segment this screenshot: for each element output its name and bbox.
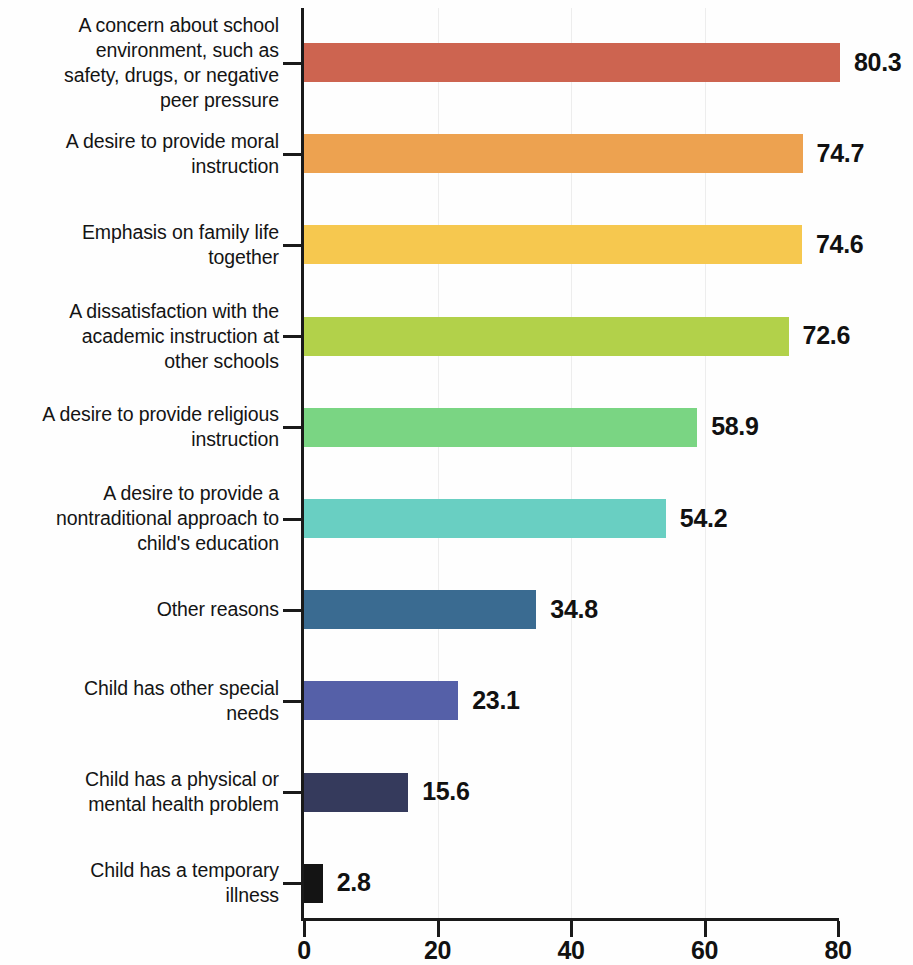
bar: [304, 590, 536, 629]
bar: [304, 317, 789, 356]
bar-value-label: 23.1: [472, 686, 519, 715]
category-label-line: Child has a physical or: [0, 767, 279, 792]
y-axis-tick: [283, 335, 303, 338]
bar-value-label: 72.6: [803, 321, 850, 350]
bar: [304, 499, 666, 538]
category-label-line: Other reasons: [0, 597, 279, 622]
category-label: Child has a physical ormental health pro…: [0, 767, 279, 817]
category-label-line: environment, such as: [0, 38, 279, 63]
x-axis-tick-label: 40: [541, 936, 601, 965]
category-label-line: other schools: [0, 349, 279, 374]
category-label-line: A desire to provide a: [0, 481, 279, 506]
category-label: A desire to provide religiousinstruction: [0, 402, 279, 452]
x-axis-tick: [570, 921, 573, 937]
category-label-line: mental health problem: [0, 792, 279, 817]
bar: [304, 134, 803, 173]
bar-row: A concern about schoolenvironment, such …: [0, 8, 913, 99]
bar-row: Child has a physical ormental health pro…: [0, 738, 913, 829]
y-axis-tick: [283, 700, 303, 703]
y-axis-tick: [283, 609, 303, 612]
bar: [304, 408, 697, 447]
bar-value-label: 54.2: [680, 504, 727, 533]
bar-row: A desire to provide religiousinstruction…: [0, 373, 913, 464]
y-axis-tick: [283, 426, 303, 429]
category-label-line: nontraditional approach to: [0, 506, 279, 531]
x-axis-tick: [704, 921, 707, 937]
category-label-line: A desire to provide moral: [0, 129, 279, 154]
bar-row: A dissatisfaction with theacademic instr…: [0, 282, 913, 373]
x-axis-tick: [437, 921, 440, 937]
category-label-line: instruction: [0, 154, 279, 179]
category-label-line: instruction: [0, 427, 279, 452]
bar: [304, 43, 840, 82]
category-label-line: safety, drugs, or negative: [0, 63, 279, 88]
category-label-line: child's education: [0, 531, 279, 556]
x-axis-tick-label: 0: [274, 936, 334, 965]
bar: [304, 864, 323, 903]
bar-value-label: 15.6: [422, 777, 469, 806]
category-label-line: needs: [0, 701, 279, 726]
y-axis-tick: [283, 62, 303, 65]
bar-row: A desire to provide anontraditional appr…: [0, 464, 913, 555]
category-label-line: academic instruction at: [0, 324, 279, 349]
category-label-line: A concern about school: [0, 13, 279, 38]
category-label: Child has a temporaryillness: [0, 858, 279, 908]
category-label: Child has other specialneeds: [0, 676, 279, 726]
bar-row: Child has a temporaryillness2.8: [0, 829, 913, 920]
category-label-line: together: [0, 245, 279, 270]
bar-row: A desire to provide moralinstruction74.7: [0, 99, 913, 190]
bar: [304, 681, 458, 720]
bar-value-label: 74.7: [817, 139, 864, 168]
category-label: Other reasons: [0, 597, 279, 622]
category-label-line: A dissatisfaction with the: [0, 299, 279, 324]
x-axis-tick-label: 80: [808, 936, 868, 965]
category-label-line: illness: [0, 883, 279, 908]
y-axis-tick: [283, 153, 303, 156]
category-label: A concern about schoolenvironment, such …: [0, 13, 279, 113]
y-axis-tick: [283, 882, 303, 885]
category-label-line: Child has other special: [0, 676, 279, 701]
bar-chart: A concern about schoolenvironment, such …: [0, 0, 913, 965]
bar-value-label: 58.9: [711, 412, 758, 441]
bar-row: Child has other specialneeds23.1: [0, 646, 913, 737]
category-label-line: A desire to provide religious: [0, 402, 279, 427]
x-axis-tick: [837, 921, 840, 937]
category-label-line: Emphasis on family life: [0, 220, 279, 245]
bar: [304, 225, 802, 264]
bar: [304, 773, 408, 812]
bar-value-label: 2.8: [337, 868, 371, 897]
category-label: A dissatisfaction with theacademic instr…: [0, 299, 279, 374]
x-axis-tick: [303, 921, 306, 937]
x-axis-tick-label: 60: [675, 936, 735, 965]
bar-value-label: 74.6: [816, 230, 863, 259]
category-label: A desire to provide anontraditional appr…: [0, 481, 279, 556]
y-axis-tick: [283, 518, 303, 521]
bar-row: Other reasons34.8: [0, 555, 913, 646]
bar-value-label: 80.3: [854, 48, 901, 77]
y-axis-tick: [283, 244, 303, 247]
y-axis-tick: [283, 791, 303, 794]
category-label-line: Child has a temporary: [0, 858, 279, 883]
category-label: Emphasis on family lifetogether: [0, 220, 279, 270]
bar-row: Emphasis on family lifetogether74.6: [0, 190, 913, 281]
bar-value-label: 34.8: [550, 595, 597, 624]
category-label: A desire to provide moralinstruction: [0, 129, 279, 179]
x-axis-tick-label: 20: [408, 936, 468, 965]
